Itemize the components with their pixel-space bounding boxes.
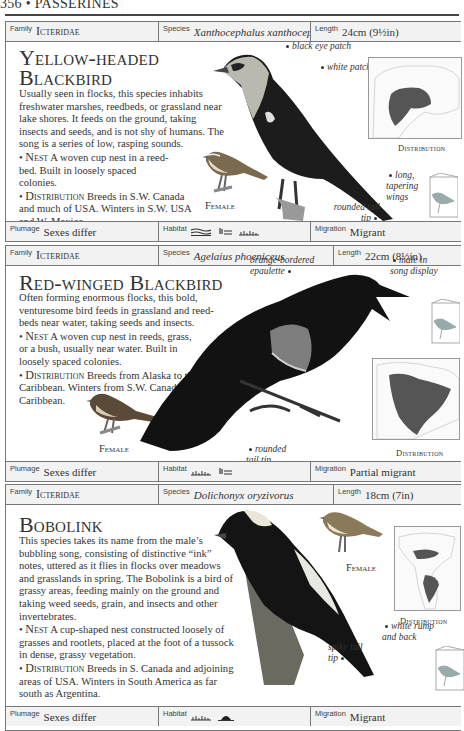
annotation-male-in-song-display: male in song display — [390, 255, 445, 277]
plumage-cell: Plumage Sexes differ — [6, 462, 159, 481]
species-value: Xanthocephalus xanthocephalus — [194, 26, 311, 38]
migration-label: Migration — [315, 224, 346, 233]
species-label: Species — [163, 248, 190, 257]
species-entry-red-winged-blackbird: Family Icteridae Species Agelaius phoeni… — [5, 245, 461, 482]
entry-footer-bar: Plumage Sexes differ Habitat Migration M… — [6, 706, 461, 726]
distribution-label: Distribution — [25, 189, 84, 203]
nest-label: Nest — [25, 622, 48, 636]
plumage-value: Sexes differ — [44, 226, 97, 238]
grassland-icon — [191, 468, 211, 476]
nest-label: Nest — [25, 329, 48, 343]
habitat-cell: Habitat — [159, 222, 311, 241]
description-text: Usually seen in flocks, this species inh… — [19, 88, 224, 151]
species-label: Species — [163, 24, 190, 33]
distribution-map — [372, 358, 460, 440]
migration-cell: Migration Migrant — [311, 707, 461, 726]
distribution-map — [368, 57, 462, 139]
annotation-white-patch: white patch — [318, 62, 371, 73]
species-title: Yellow-headed Blackbird — [19, 48, 159, 88]
habitat-label: Habitat — [163, 224, 187, 233]
plumage-cell: Plumage Sexes differ — [6, 707, 159, 726]
nest-text: A cup-shaped nest constructed loosely of… — [19, 624, 234, 660]
field-guide-book-icon — [434, 646, 464, 691]
annotation-white-rump-and-back: white rump and back — [382, 621, 442, 643]
plumage-value: Sexes differ — [44, 711, 97, 723]
entry-header-bar: Family Icteridae Species Dolichonyx oryz… — [6, 485, 461, 505]
scrub-icon — [218, 712, 234, 721]
plumage-label: Plumage — [10, 224, 40, 233]
family-cell: Family Icteridae — [6, 22, 159, 41]
family-cell: Family Icteridae — [6, 485, 159, 504]
distribution-paragraph: • Distribution Breeds in S. Canada and a… — [19, 662, 237, 701]
map-label: Distribution — [396, 448, 443, 458]
family-label: Family — [10, 248, 32, 257]
length-label: Length — [338, 248, 361, 257]
nest-paragraph: • Nest A woven cup nest in a reed-bed. B… — [19, 151, 174, 190]
habitat-cell: Habitat — [159, 462, 311, 481]
reedbed-icon — [218, 228, 232, 236]
description-text: This species takes its name from the mal… — [19, 535, 237, 623]
family-value: Icteridae — [36, 24, 80, 39]
migration-value: Migrant — [350, 711, 385, 723]
map-label: Distribution — [398, 143, 445, 153]
species-cell: Species Xanthocephalus xanthocephalus — [159, 22, 311, 41]
entry-footer-bar: Plumage Sexes differ Habitat Migration M… — [6, 221, 461, 241]
plumage-cell: Plumage Sexes differ — [6, 222, 159, 241]
entry-footer-bar: Plumage Sexes differ Habitat Migration P… — [6, 461, 461, 481]
annotation-spiky-tail-tip: spiky tail tip — [328, 642, 368, 664]
field-guide-book-icon — [428, 173, 458, 218]
plumage-value: Sexes differ — [44, 466, 97, 478]
species-entry-yellow-headed-blackbird: Family Icteridae Species Xanthocephalus … — [5, 21, 461, 242]
length-value: 18cm (7in) — [365, 489, 414, 501]
female-label: Female — [346, 562, 376, 573]
species-value: Dolichonyx oryzivorus — [194, 489, 294, 501]
family-value: Icteridae — [36, 487, 80, 502]
nest-paragraph: • Nest A cup-shaped nest constructed loo… — [19, 623, 237, 662]
female-bird-illustration — [319, 510, 384, 555]
migration-label: Migration — [315, 709, 346, 718]
habitat-label: Habitat — [163, 709, 187, 718]
migration-cell: Migration Migrant — [311, 222, 461, 241]
species-description: This species takes its name from the mal… — [19, 535, 237, 701]
migration-value: Partial migrant — [350, 466, 416, 478]
family-label: Family — [10, 24, 32, 33]
female-label: Female — [99, 443, 129, 454]
nest-label: Nest — [25, 150, 48, 164]
length-label: Length — [338, 487, 361, 496]
distribution-label: Distribution — [25, 368, 84, 382]
grassland-icon — [191, 713, 211, 721]
species-description: Usually seen in flocks, this species inh… — [19, 88, 224, 229]
species-entry-bobolink: Family Icteridae Species Dolichonyx oryz… — [5, 484, 461, 731]
migration-label: Migration — [315, 464, 346, 473]
reedbed-icon — [218, 468, 232, 476]
species-title: Bobolink — [19, 515, 103, 535]
male-bird-illustration — [140, 261, 410, 456]
wetland-icon — [191, 228, 211, 236]
family-value: Icteridae — [36, 248, 80, 263]
grassland-icon — [239, 228, 259, 236]
migration-value: Migrant — [350, 226, 385, 238]
family-cell: Family Icteridae — [6, 246, 159, 265]
annotation-black-eye-patch: black eye patch — [283, 41, 351, 52]
header-rule — [5, 14, 459, 16]
entry-header-bar: Family Icteridae Species Xanthocephalus … — [6, 22, 461, 42]
habitat-cell: Habitat — [159, 707, 311, 726]
species-label: Species — [163, 487, 190, 496]
plumage-label: Plumage — [10, 464, 40, 473]
running-head: 356 • PASSERINES — [0, 0, 119, 12]
length-label: Length — [315, 24, 338, 33]
family-label: Family — [10, 487, 32, 496]
length-cell: Length 24cm (9½in) — [311, 22, 461, 41]
distribution-map — [394, 526, 461, 611]
migration-cell: Migration Partial migrant — [311, 462, 461, 481]
length-cell: Length 18cm (7in) — [334, 485, 461, 504]
field-guide-book-icon — [430, 299, 460, 344]
annotation-long-tapering-wings: long, tapering wings — [386, 170, 434, 203]
length-value: 24cm (9½in) — [342, 26, 399, 38]
plumage-label: Plumage — [10, 709, 40, 718]
distribution-label: Distribution — [25, 661, 84, 675]
annotation-orange-bordered-epaulette: orange-bordered epaulette — [250, 255, 320, 277]
habitat-label: Habitat — [163, 464, 187, 473]
title-line-2: Blackbird — [19, 65, 112, 90]
species-cell: Species Dolichonyx oryzivorus — [159, 485, 334, 504]
